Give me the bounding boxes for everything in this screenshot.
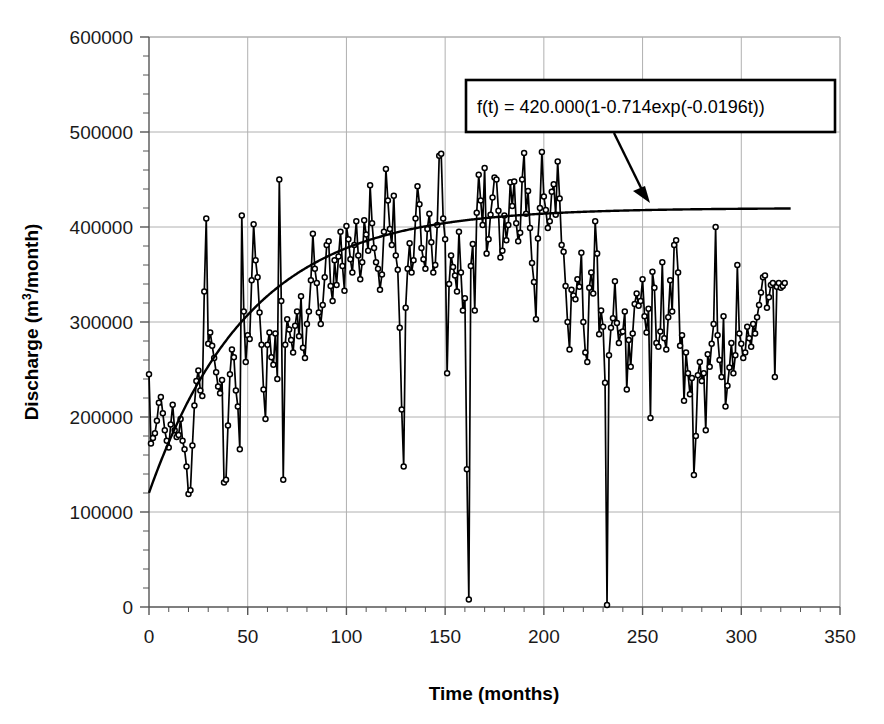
data-point-marker: [474, 210, 479, 215]
data-point-marker: [387, 226, 392, 231]
data-point-marker: [415, 184, 420, 189]
data-point-marker: [308, 278, 313, 283]
data-point-marker: [233, 388, 238, 393]
data-point-marker: [320, 302, 325, 307]
data-point-marker: [462, 296, 467, 301]
x-tick-label: 0: [144, 626, 155, 647]
data-point-marker: [376, 266, 381, 271]
data-point-marker: [687, 392, 692, 397]
data-point-marker: [496, 208, 501, 213]
data-point-marker: [381, 229, 386, 234]
data-point-marker: [709, 341, 714, 346]
data-point-marker: [449, 253, 454, 258]
data-point-marker: [148, 441, 153, 446]
data-point-marker: [372, 245, 377, 250]
data-point-marker: [480, 223, 485, 228]
data-point-marker: [721, 314, 726, 319]
data-point-marker: [486, 237, 491, 242]
data-point-marker: [225, 423, 230, 428]
data-point-marker: [689, 376, 694, 381]
data-point-marker: [703, 428, 708, 433]
data-point-marker: [727, 365, 732, 370]
data-point-marker: [782, 281, 787, 286]
y-tick-label: 0: [122, 597, 133, 618]
data-point-marker: [666, 315, 671, 320]
data-point-marker: [640, 277, 645, 282]
data-point-marker: [374, 260, 379, 265]
y-tick-label: 500000: [70, 122, 133, 143]
data-point-marker: [498, 255, 503, 260]
data-point-marker: [660, 260, 665, 265]
data-point-marker: [190, 443, 195, 448]
data-point-marker: [682, 398, 687, 403]
data-point-marker: [259, 342, 264, 347]
data-point-marker: [616, 340, 621, 345]
data-point-marker: [764, 305, 769, 310]
data-point-marker: [289, 338, 294, 343]
data-point-marker: [591, 291, 596, 296]
data-point-marker: [638, 299, 643, 304]
data-point-marker: [699, 378, 704, 383]
data-point-marker: [443, 237, 448, 242]
data-point-marker: [208, 330, 213, 335]
data-point-marker: [520, 177, 525, 182]
data-point-marker: [577, 284, 582, 289]
data-point-marker: [531, 280, 536, 285]
data-point-marker: [237, 447, 242, 452]
data-point-marker: [297, 334, 302, 339]
y-tick-label: 100000: [70, 502, 133, 523]
data-point-marker: [156, 400, 161, 405]
data-point-marker: [545, 225, 550, 230]
data-point-marker: [535, 236, 540, 241]
data-point-marker: [581, 320, 586, 325]
data-point-marker: [664, 347, 669, 352]
data-point-marker: [772, 375, 777, 380]
data-point-marker: [445, 371, 450, 376]
data-point-marker: [383, 167, 388, 172]
data-point-marker: [719, 375, 724, 380]
data-point-marker: [678, 343, 683, 348]
data-point-marker: [603, 380, 608, 385]
data-point-marker: [685, 371, 690, 376]
data-point-marker: [429, 240, 434, 245]
data-point-marker: [162, 428, 167, 433]
data-point-marker: [612, 279, 617, 284]
data-point-marker: [456, 229, 461, 234]
data-point-marker: [512, 179, 517, 184]
data-point-marker: [362, 218, 367, 223]
data-point-marker: [419, 245, 424, 250]
data-point-marker: [715, 333, 720, 338]
data-point-marker: [494, 177, 499, 182]
data-point-marker: [261, 387, 266, 392]
data-point-marker: [346, 237, 351, 242]
data-point-marker: [451, 264, 456, 269]
y-axis-title-group: Discharge (m3/month): [20, 224, 42, 421]
data-point-marker: [447, 282, 452, 287]
data-point-marker: [354, 219, 359, 224]
data-point-marker: [743, 350, 748, 355]
data-point-marker: [573, 297, 578, 302]
data-point-marker: [364, 232, 369, 237]
data-point-marker: [723, 404, 728, 409]
data-point-marker: [500, 248, 505, 253]
data-point-marker: [239, 213, 244, 218]
data-point-marker: [697, 359, 702, 364]
data-point-marker: [257, 310, 262, 315]
data-point-marker: [751, 321, 756, 326]
data-point-marker: [759, 290, 764, 295]
data-point-marker: [468, 263, 473, 268]
data-point-marker: [630, 331, 635, 336]
data-point-marker: [597, 332, 602, 337]
data-point-marker: [336, 254, 341, 259]
y-tick-label: 400000: [70, 217, 133, 238]
data-point-marker: [458, 270, 463, 275]
data-point-marker: [224, 477, 229, 482]
data-point-marker: [295, 309, 300, 314]
data-point-marker: [251, 222, 256, 227]
data-point-marker: [328, 283, 333, 288]
data-point-marker: [147, 372, 152, 377]
data-point-marker: [154, 418, 159, 423]
data-point-marker: [537, 206, 542, 211]
data-point-marker: [306, 309, 311, 314]
data-point-marker: [729, 340, 734, 345]
